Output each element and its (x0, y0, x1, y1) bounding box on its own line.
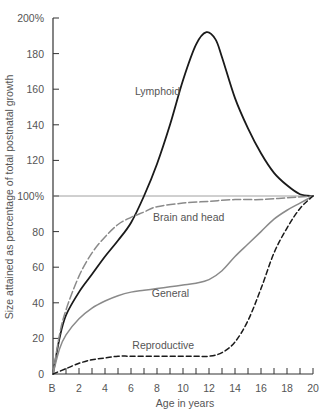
x-tick-label: 12 (203, 382, 215, 394)
x-axis-label: Age in years (156, 397, 214, 409)
label-brain-and-head: Brain and head (153, 211, 224, 223)
growth-chart: 020406080100%120140160180200%B2468101214… (0, 0, 322, 413)
y-tick-label: 200% (17, 12, 44, 24)
series-labels: LymphoidBrain and headGeneralReproductiv… (132, 85, 224, 352)
label-general: General (152, 287, 189, 299)
y-tick-label: 140 (26, 119, 44, 131)
x-tick-label: 2 (76, 382, 82, 394)
series-lines (53, 32, 313, 374)
y-tick-label: 60 (32, 261, 44, 273)
x-tick-label: 16 (255, 382, 267, 394)
label-reproductive: Reproductive (132, 339, 194, 351)
y-tick-label: 160 (26, 83, 44, 95)
y-tick-label: 180 (26, 48, 44, 60)
y-tick-label: 40 (32, 297, 44, 309)
x-tick-label: B (48, 382, 55, 394)
x-tick-label: 14 (229, 382, 241, 394)
x-tick-label: 20 (307, 382, 319, 394)
x-tick-label: 8 (154, 382, 160, 394)
x-tick-label: 18 (281, 382, 293, 394)
y-tick-label: 0 (38, 368, 44, 380)
y-tick-label: 100% (17, 190, 44, 202)
x-tick-label: 6 (128, 382, 134, 394)
y-tick-label: 80 (32, 226, 44, 238)
y-tick-label: 120 (26, 154, 44, 166)
label-lymphoid: Lymphoid (135, 85, 180, 97)
x-tick-label: 10 (177, 382, 189, 394)
x-tick-label: 4 (102, 382, 108, 394)
axes: 020406080100%120140160180200%B2468101214… (17, 12, 319, 394)
y-axis-label: Size attained as percentage of total pos… (3, 75, 15, 320)
y-tick-label: 20 (32, 332, 44, 344)
